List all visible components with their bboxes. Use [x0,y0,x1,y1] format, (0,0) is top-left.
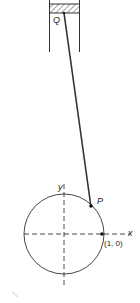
label-point-1-0: (1, 0) [104,239,123,248]
piston-crank-diagram: Q P y x (1, 0) [0,0,140,303]
connecting-rod [64,13,91,207]
scan-smudge [12,292,18,297]
point-1-0-dot [100,232,104,236]
point-q-dot [63,12,66,15]
label-p: P [97,196,103,206]
point-p-dot [89,204,93,208]
label-y: y [57,182,63,192]
piston-block [50,4,80,13]
label-x: x [127,228,133,238]
label-q: Q [53,15,60,25]
